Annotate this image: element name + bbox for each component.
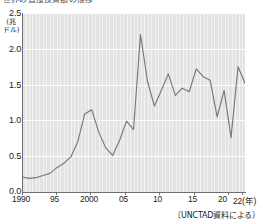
x-tick-20: 20 [218, 194, 227, 204]
x-tick-mark-2020 [228, 192, 229, 195]
x-tick-10: 10 [153, 194, 162, 204]
y-axis-unit-label: (兆 ドル) [1, 19, 21, 34]
y-axis-line [22, 13, 23, 193]
y-tick-1.0: 1.0 [9, 115, 21, 125]
y-tick-1.5: 1.5 [9, 80, 21, 90]
x-tick-1990: 1990 [12, 194, 30, 204]
y-axis-unit-line2: ドル) [3, 27, 20, 35]
x-tick-22-year: 22(年) [233, 194, 256, 206]
x-tick-2000: 2000 [80, 194, 98, 204]
fdi-line-chart-figure: 世界の直接投資額の推移 2.5 2.0 1.5 1.0 0.5 0.0 (兆 ド… [0, 0, 263, 224]
x-tick-15: 15 [188, 194, 197, 204]
chart-title-clipped: 世界の直接投資額の推移 [0, 0, 263, 7]
source-note: 〔UNCTAD資料による〕 [173, 209, 260, 220]
x-tick-05: 05 [119, 194, 128, 204]
data-series-line [22, 13, 245, 192]
y-tick-2.0: 2.0 [9, 44, 21, 54]
y-tick-0.5: 0.5 [9, 151, 21, 161]
y-tick-2.5: 2.5 [9, 8, 21, 18]
x-tick-95: 95 [50, 194, 59, 204]
